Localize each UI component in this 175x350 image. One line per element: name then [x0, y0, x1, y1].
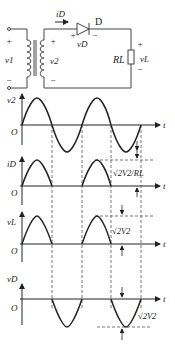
- v1-plus: +: [6, 37, 12, 46]
- rectifier-diagram: [0, 0, 175, 350]
- plot-iD-annotation: √2V2/RL: [113, 169, 144, 178]
- plot-iD-ylabel: iD: [7, 160, 16, 169]
- input-terminal-bottom: [8, 87, 11, 90]
- plot-v2-xlabel: t: [163, 121, 166, 130]
- plot-vL-origin: O: [11, 247, 18, 256]
- plot-vD-origin: O: [11, 304, 18, 313]
- plot-v2-origin: O: [11, 128, 18, 137]
- plot-iD-xlabel: t: [163, 182, 166, 191]
- load-resistor-icon: [128, 50, 134, 64]
- label-v1: v1: [5, 56, 14, 65]
- label-vD: vD: [77, 40, 88, 49]
- plot-vL-annotation: √2V2: [112, 227, 130, 236]
- diode-minus: −: [92, 31, 98, 40]
- plot-v2-ylabel: v2: [7, 96, 16, 105]
- vL-plus: +: [137, 40, 143, 49]
- v2-minus: −: [50, 76, 56, 85]
- label-iD: iD: [56, 10, 65, 19]
- v1-minus: −: [6, 76, 12, 85]
- plot-vL-ylabel: vL: [7, 218, 16, 227]
- plot-vL: [20, 205, 160, 262]
- label-vL: vL: [140, 55, 149, 64]
- v2-plus: +: [50, 37, 56, 46]
- guide-lines: [52, 125, 155, 327]
- input-terminal-top: [8, 28, 11, 31]
- plot-v2: [20, 94, 160, 152]
- plot-vD-annotation: √2V2: [138, 312, 156, 321]
- secondary-coil: [40, 40, 44, 77]
- plot-iD-origin: O: [11, 189, 18, 198]
- plot-vD-xlabel: t: [163, 295, 166, 304]
- label-v2: v2: [50, 57, 59, 66]
- plot-vD-ylabel: vD: [7, 275, 18, 284]
- label-RL: RL: [113, 55, 125, 65]
- plot-vL-xlabel: t: [163, 240, 166, 249]
- primary-coil: [27, 40, 31, 77]
- vL-minus: −: [137, 65, 143, 74]
- label-diode: D: [95, 17, 102, 27]
- diode-icon: [77, 23, 89, 35]
- diode-plus: +: [70, 31, 76, 40]
